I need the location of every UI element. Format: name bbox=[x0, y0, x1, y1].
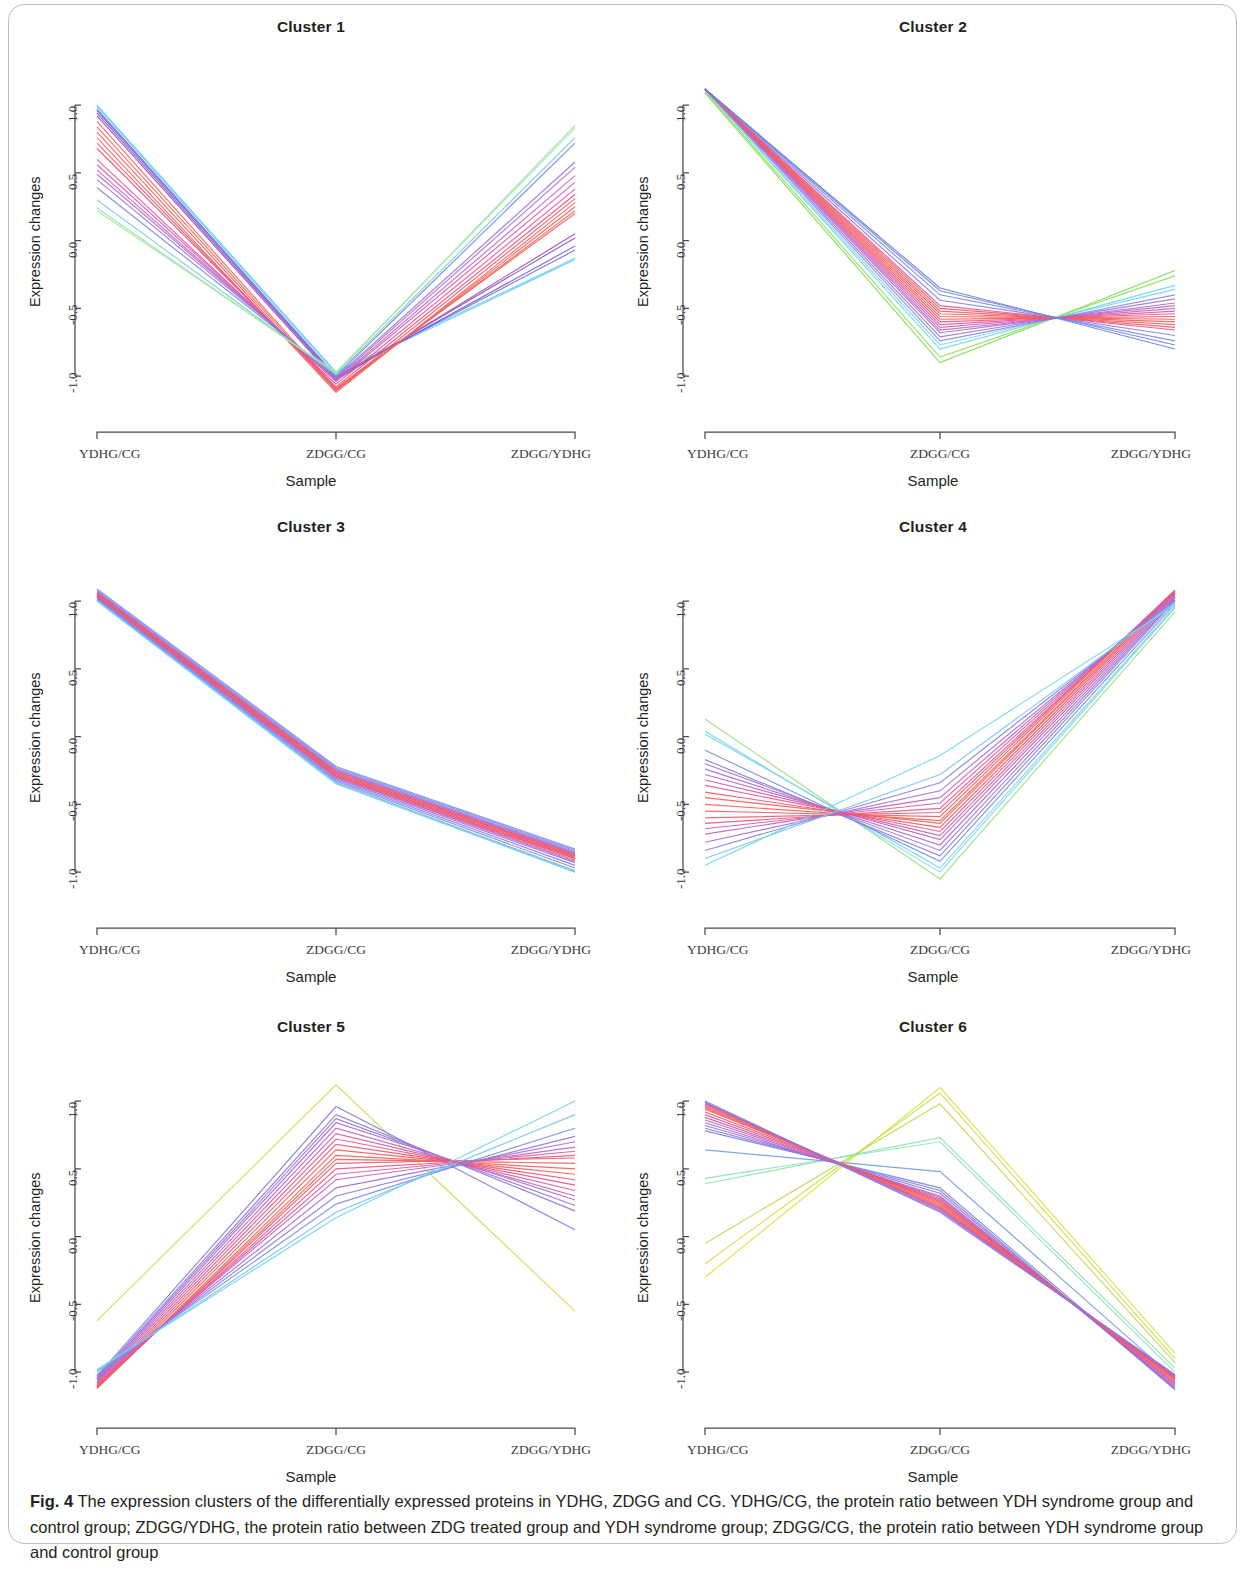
x-axis-label: Sample bbox=[622, 968, 1244, 985]
protein-line bbox=[97, 1128, 575, 1381]
y-tick-label: -0.5 bbox=[65, 1301, 81, 1322]
protein-line bbox=[705, 89, 1175, 319]
protein-line bbox=[705, 1117, 1175, 1384]
protein-line bbox=[97, 113, 575, 379]
plot-area bbox=[622, 500, 1244, 1000]
protein-line bbox=[705, 1125, 1175, 1388]
x-tick-label: YDHG/CG bbox=[79, 446, 141, 462]
protein-line bbox=[705, 1120, 1175, 1386]
series-group bbox=[705, 590, 1175, 879]
cluster-panel-6: Cluster 61.00.50.0-0.5-1.0Expression cha… bbox=[622, 1000, 1244, 1500]
y-tick-label: 1.0 bbox=[65, 106, 81, 122]
protein-line bbox=[705, 89, 1175, 319]
y-tick-label: 1.0 bbox=[673, 106, 689, 122]
y-axis bbox=[683, 1101, 689, 1372]
y-tick-label: -1.0 bbox=[673, 373, 689, 394]
y-tick-label: -1.0 bbox=[65, 1369, 81, 1390]
y-axis-label: Expression changes bbox=[27, 672, 43, 803]
y-axis-label: Expression changes bbox=[635, 176, 651, 307]
y-tick-label: 0.0 bbox=[65, 241, 81, 257]
caption-text: The expression clusters of the different… bbox=[30, 1492, 1203, 1561]
series-group bbox=[97, 589, 575, 872]
x-tick-label: ZDGG/YDHG bbox=[511, 942, 591, 958]
protein-line bbox=[97, 596, 575, 858]
protein-line bbox=[97, 148, 575, 386]
y-axis bbox=[75, 601, 81, 872]
y-tick-label: -0.5 bbox=[673, 1301, 689, 1322]
x-tick-label: ZDGG/YDHG bbox=[1111, 446, 1191, 462]
protein-line bbox=[97, 598, 575, 862]
x-tick-label: YDHG/CG bbox=[79, 942, 141, 958]
y-tick-label: 0.5 bbox=[673, 670, 689, 686]
protein-line bbox=[97, 1107, 575, 1377]
x-tick-label: ZDGG/CG bbox=[306, 1442, 366, 1458]
protein-line bbox=[705, 89, 1175, 333]
protein-line bbox=[97, 1144, 575, 1385]
y-tick-label: 1.0 bbox=[673, 602, 689, 618]
protein-line bbox=[705, 1123, 1175, 1387]
protein-line bbox=[705, 601, 1175, 856]
series-group bbox=[97, 105, 575, 392]
plot-area bbox=[0, 500, 622, 1000]
protein-line bbox=[705, 1112, 1175, 1382]
protein-line bbox=[97, 1136, 575, 1375]
protein-line bbox=[97, 593, 575, 855]
protein-line bbox=[97, 1085, 575, 1321]
protein-line bbox=[705, 89, 1175, 328]
y-tick-label: -1.0 bbox=[65, 869, 81, 890]
y-axis-label: Expression changes bbox=[27, 176, 43, 307]
protein-line bbox=[705, 89, 1175, 330]
x-axis bbox=[97, 1428, 575, 1435]
plot-area bbox=[0, 0, 622, 500]
protein-line bbox=[705, 1150, 1175, 1379]
x-tick-label: YDHG/CG bbox=[687, 942, 749, 958]
protein-line bbox=[705, 89, 1175, 322]
cluster-panel-1: Cluster 11.00.50.0-0.5-1.0Expression cha… bbox=[0, 0, 622, 500]
protein-line bbox=[97, 1159, 575, 1388]
x-tick-label: YDHG/CG bbox=[79, 1442, 141, 1458]
y-tick-label: 1.0 bbox=[65, 602, 81, 618]
x-axis bbox=[705, 432, 1175, 439]
y-tick-label: 0.5 bbox=[65, 1170, 81, 1186]
x-axis bbox=[97, 928, 575, 935]
x-axis-label: Sample bbox=[0, 1468, 622, 1485]
protein-line bbox=[705, 1093, 1175, 1359]
protein-line bbox=[97, 106, 575, 373]
protein-line bbox=[97, 162, 575, 377]
protein-line bbox=[97, 597, 575, 860]
protein-line bbox=[705, 592, 1175, 821]
protein-line bbox=[97, 592, 575, 852]
y-tick-label: -0.5 bbox=[65, 305, 81, 326]
x-tick-label: YDHG/CG bbox=[687, 446, 749, 462]
protein-line bbox=[705, 1104, 1175, 1363]
y-axis-label: Expression changes bbox=[635, 672, 651, 803]
protein-line bbox=[97, 1101, 575, 1369]
y-tick-label: -0.5 bbox=[65, 801, 81, 822]
cluster-panel-3: Cluster 31.00.50.0-0.5-1.0Expression cha… bbox=[0, 500, 622, 1000]
x-axis bbox=[705, 1428, 1175, 1435]
y-tick-label: 0.0 bbox=[65, 737, 81, 753]
x-tick-label: ZDGG/YDHG bbox=[1111, 942, 1191, 958]
protein-line bbox=[97, 594, 575, 856]
y-tick-label: 0.5 bbox=[673, 174, 689, 190]
protein-line bbox=[97, 597, 575, 859]
y-tick-label: -1.0 bbox=[673, 869, 689, 890]
plot-area bbox=[0, 1000, 622, 1500]
x-tick-label: YDHG/CG bbox=[687, 1442, 749, 1458]
y-axis-label: Expression changes bbox=[635, 1172, 651, 1303]
y-axis-label: Expression changes bbox=[27, 1172, 43, 1303]
protein-line bbox=[97, 589, 575, 849]
x-tick-label: ZDGG/CG bbox=[910, 942, 970, 958]
protein-line bbox=[97, 594, 575, 854]
protein-line bbox=[97, 592, 575, 854]
x-axis bbox=[705, 928, 1175, 935]
protein-line bbox=[97, 593, 575, 853]
y-tick-label: -1.0 bbox=[673, 1369, 689, 1390]
figure-caption: Fig. 4 The expression clusters of the di… bbox=[30, 1489, 1210, 1566]
y-axis bbox=[75, 105, 81, 376]
protein-line bbox=[97, 128, 575, 372]
y-tick-label: -0.5 bbox=[673, 801, 689, 822]
y-tick-label: -0.5 bbox=[673, 305, 689, 326]
protein-line bbox=[97, 1155, 575, 1388]
protein-line bbox=[97, 596, 575, 859]
